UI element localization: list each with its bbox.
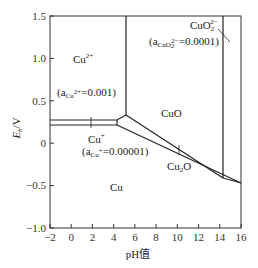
plot-frame — [50, 16, 241, 228]
y-tick-label: 1.5 — [32, 10, 46, 22]
y-axis-label: Eh/V — [10, 117, 24, 139]
x-tick-label: 4 — [111, 231, 117, 243]
activity-label-cuo2: (aCuO22−=0.0001) — [149, 35, 219, 50]
x-axis-tick-labels: −2 0 2 4 6 8 10 12 14 16 — [44, 231, 247, 243]
x-tick-label: 2 — [90, 231, 96, 243]
activity-label-cu2plus: (aCu2+=0.001) — [57, 86, 116, 100]
region-label-cu: Cu — [110, 181, 123, 193]
region-label-cu2o: Cu2O — [167, 160, 191, 174]
y-tick-label: −0.5 — [26, 179, 46, 191]
x-tick-label: 12 — [193, 231, 204, 243]
x-tick-label: 8 — [153, 231, 159, 243]
x-tick-label: −2 — [44, 231, 56, 243]
x-tick-label: 0 — [68, 231, 74, 243]
x-tick-label: 6 — [132, 231, 138, 243]
y-axis-tick-labels: 1.5 1.0 0.5 0 −0.5 −1.0 — [26, 10, 46, 234]
y-tick-label: 0.5 — [32, 95, 46, 107]
region-label-cu2plus: Cu2+ — [73, 52, 93, 65]
x-tick-label: 10 — [172, 231, 184, 243]
y-tick-label: 0 — [41, 137, 47, 149]
y-tick-label: 1.0 — [32, 52, 46, 64]
svg-text:Eh/V: Eh/V — [10, 117, 24, 139]
cu2plus-cuplus-boundary — [50, 115, 126, 120]
y-axis-ticks — [50, 16, 54, 228]
x-axis-label: pH值 — [126, 248, 150, 260]
region-label-cuo2: CuO22− — [190, 18, 218, 33]
pourbaix-diagram: 1.5 1.0 0.5 0 −0.5 −1.0 −2 0 2 4 6 8 10 … — [0, 0, 258, 268]
activity-label-cuplus: (aCu+=0.00001) — [82, 145, 149, 159]
cuo2-pointer — [218, 29, 230, 42]
x-axis-ticks — [50, 224, 241, 228]
x-tick-label: 16 — [236, 231, 248, 243]
x-tick-label: 14 — [214, 231, 226, 243]
region-label-cuplus: Cu+ — [88, 132, 105, 145]
region-label-cuo: CuO — [161, 107, 182, 119]
